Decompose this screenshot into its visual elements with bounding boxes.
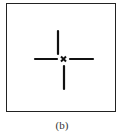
center-x-marker bbox=[61, 57, 66, 62]
figure-caption: (b) bbox=[0, 119, 124, 131]
crosshair-diagram bbox=[0, 0, 124, 135]
